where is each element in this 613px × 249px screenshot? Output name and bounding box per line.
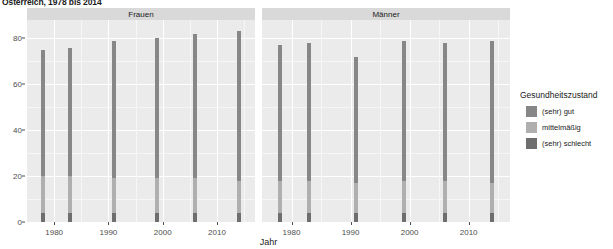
- bar-segment: [307, 43, 311, 181]
- bar: [443, 20, 447, 222]
- grid-line-vertical-minor: [380, 20, 381, 222]
- grid-line-horizontal-minor: [262, 153, 510, 154]
- grid-line-vertical: [351, 20, 352, 222]
- legend-swatch: [526, 122, 537, 133]
- bar-segment: [490, 183, 494, 213]
- legend-item[interactable]: (sehr) schlecht: [520, 136, 613, 151]
- x-tick-mark: [163, 222, 164, 225]
- x-tick-mark: [351, 222, 352, 225]
- bar-segment: [112, 213, 116, 222]
- x-tick-label: 2000: [154, 228, 172, 237]
- bar-segment: [237, 31, 241, 180]
- bar: [354, 20, 358, 222]
- bar: [112, 20, 116, 222]
- bar-segment: [307, 181, 311, 213]
- panel-strip-frauen: Frauen: [27, 8, 255, 20]
- panel-strip-männer: Männer: [262, 8, 510, 20]
- grid-line-horizontal-minor: [27, 107, 255, 108]
- bar-segment: [490, 41, 494, 183]
- grid-line-vertical-minor: [190, 20, 191, 222]
- y-axis: 020406080: [0, 0, 22, 249]
- bar-segment: [193, 34, 197, 179]
- bar-segment: [155, 178, 159, 212]
- x-tick-label: 1980: [45, 228, 63, 237]
- grid-line-horizontal: [262, 38, 510, 39]
- panel-männer: [262, 20, 510, 222]
- grid-line-horizontal-minor: [262, 61, 510, 62]
- bar-segment: [41, 213, 45, 222]
- legend-title: Gesundheitszustand: [520, 90, 613, 100]
- grid-line-vertical-minor: [498, 20, 499, 222]
- grid-line-horizontal: [262, 84, 510, 85]
- bar-segment: [443, 213, 447, 222]
- bar-segment: [41, 176, 45, 213]
- bar-segment: [443, 43, 447, 181]
- bar-segment: [112, 41, 116, 179]
- x-tick-mark: [54, 222, 55, 225]
- bar-segment: [68, 176, 72, 213]
- y-tick-mark: [22, 222, 25, 223]
- x-tick-mark: [292, 222, 293, 225]
- grid-line-horizontal-minor: [27, 61, 255, 62]
- bar-segment: [278, 213, 282, 222]
- grid-line-vertical-minor: [81, 20, 82, 222]
- x-tick-label: 2000: [401, 228, 419, 237]
- legend-item[interactable]: mittelmäßig: [520, 120, 613, 135]
- grid-line-vertical: [292, 20, 293, 222]
- bar-segment: [402, 181, 406, 213]
- grid-line-horizontal: [27, 176, 255, 177]
- grid-line-horizontal-minor: [27, 199, 255, 200]
- bar: [490, 20, 494, 222]
- y-tick-label: 60: [13, 80, 22, 89]
- grid-line-horizontal: [27, 130, 255, 131]
- bar-segment: [155, 38, 159, 178]
- bar: [278, 20, 282, 222]
- bar-segment: [237, 213, 241, 222]
- bar-segment: [112, 178, 116, 212]
- grid-line-vertical-minor: [136, 20, 137, 222]
- legend-swatch: [526, 106, 537, 117]
- bar-segment: [354, 57, 358, 183]
- bar-segment: [155, 213, 159, 222]
- bar-segment: [68, 48, 72, 177]
- bar-segment: [307, 213, 311, 222]
- grid-line-horizontal: [27, 84, 255, 85]
- bar: [155, 20, 159, 222]
- panel-strip-label: Frauen: [128, 10, 153, 19]
- y-tick-mark: [22, 130, 25, 131]
- x-axis-title: Jahr: [260, 237, 278, 247]
- bar-segment: [41, 50, 45, 176]
- x-tick-mark: [469, 222, 470, 225]
- grid-line-vertical-minor: [244, 20, 245, 222]
- panel-frauen: [27, 20, 255, 222]
- y-tick-label: 80: [13, 34, 22, 43]
- legend-label: (sehr) schlecht: [542, 139, 591, 148]
- bar-segment: [402, 213, 406, 222]
- panel-strip-label: Männer: [372, 10, 399, 19]
- x-tick-label: 2010: [208, 228, 226, 237]
- x-tick-label: 1990: [342, 228, 360, 237]
- x-tick-label: 1980: [283, 228, 301, 237]
- legend-item[interactable]: (sehr) gut: [520, 104, 613, 119]
- grid-line-vertical: [217, 20, 218, 222]
- legend: Gesundheitszustand (sehr) gutmittelmäßig…: [520, 90, 613, 152]
- bar-segment: [354, 183, 358, 213]
- chart-root: Österreich, 1978 bis 2014 020406080 Frau…: [0, 0, 613, 249]
- bar: [41, 20, 45, 222]
- bar: [237, 20, 241, 222]
- grid-line-horizontal-minor: [27, 153, 255, 154]
- x-tick-label: 1990: [100, 228, 118, 237]
- y-tick-label: 40: [13, 126, 22, 135]
- bar-segment: [354, 213, 358, 222]
- legend-label: mittelmäßig: [542, 123, 581, 132]
- grid-line-horizontal: [262, 176, 510, 177]
- bar-segment: [443, 181, 447, 213]
- grid-line-horizontal-minor: [262, 199, 510, 200]
- legend-swatch: [526, 138, 537, 149]
- y-tick-mark: [22, 84, 25, 85]
- bar-segment: [490, 213, 494, 222]
- bar-segment: [68, 213, 72, 222]
- grid-line-horizontal: [27, 38, 255, 39]
- grid-line-horizontal: [262, 130, 510, 131]
- x-tick-mark: [108, 222, 109, 225]
